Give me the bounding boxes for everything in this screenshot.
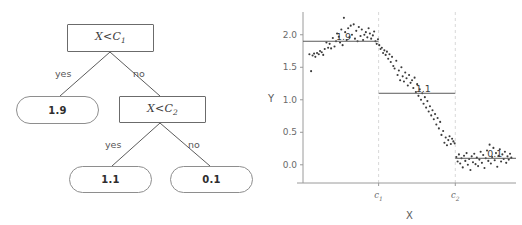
data-point [487, 160, 489, 162]
x-tick-label-1: c2 [451, 190, 460, 202]
tree-leaf-1-9[interactable]: 1.9 [16, 96, 99, 124]
data-point [439, 121, 441, 123]
data-point [446, 144, 448, 146]
data-point [506, 155, 508, 157]
data-point [411, 79, 413, 81]
data-point [508, 159, 510, 161]
y-tick-label-4: 2.0 [283, 30, 298, 40]
data-point [431, 109, 433, 111]
data-point [478, 159, 480, 161]
tree-leaf-0-1[interactable]: 0.1 [170, 166, 253, 193]
data-point [428, 110, 430, 112]
data-point [372, 34, 374, 36]
data-point [404, 71, 406, 73]
data-point [472, 161, 474, 163]
data-point [390, 61, 392, 63]
data-point [426, 100, 428, 102]
tree-node-root[interactable]: X<C1 [67, 24, 154, 52]
data-point [369, 32, 371, 34]
data-point [481, 162, 483, 164]
data-point [445, 136, 447, 138]
data-point [329, 43, 331, 45]
tree-leaf-1-9-value: 1.9 [48, 105, 66, 116]
data-point [398, 69, 400, 71]
x-tick-label-0: c1 [374, 190, 383, 202]
tree-leaf-1-1[interactable]: 1.1 [69, 166, 152, 193]
data-point [353, 23, 355, 25]
data-point [387, 58, 389, 60]
data-point [509, 153, 511, 155]
data-point [314, 56, 316, 58]
data-point [477, 165, 479, 167]
data-point [505, 162, 507, 164]
data-point [458, 153, 460, 155]
data-point [377, 38, 379, 40]
data-point [455, 156, 457, 158]
data-point [438, 127, 440, 129]
data-point [310, 70, 312, 72]
data-point [308, 53, 310, 55]
segment-1-1-annotation: 1.1 [416, 83, 431, 94]
data-point [362, 39, 364, 41]
segment-1-9-annotation: 1.9 [336, 31, 351, 42]
edge-label-inner-no: no [188, 139, 200, 150]
edge-label-root-yes: yes [55, 68, 71, 79]
data-point [417, 95, 419, 97]
data-point [322, 54, 324, 56]
data-point [358, 26, 360, 28]
edge-label-root-no: no [133, 68, 145, 79]
data-point [412, 87, 414, 89]
figure-root: X<C1 X<C2 1.9 1.1 0.1 yes no yes no 0.00… [0, 0, 522, 225]
y-tick-label-1: 0.5 [283, 127, 297, 137]
data-point [407, 84, 409, 86]
data-point [385, 54, 387, 56]
data-point [420, 99, 422, 101]
y-tick-label-3: 1.5 [283, 62, 297, 72]
data-point [350, 25, 352, 27]
data-point [500, 160, 502, 162]
data-point [312, 55, 314, 57]
data-point [442, 130, 444, 132]
tree-node-internal[interactable]: X<C2 [119, 96, 206, 123]
data-point [378, 44, 380, 46]
data-point [342, 44, 344, 46]
data-point [376, 43, 378, 45]
data-point [483, 167, 485, 169]
data-point [462, 166, 464, 168]
data-point [405, 77, 407, 79]
data-point [494, 159, 496, 161]
data-point [457, 160, 459, 162]
data-point [469, 169, 471, 171]
data-point [430, 114, 432, 116]
data-point [324, 48, 326, 50]
data-point [433, 118, 435, 120]
data-point [351, 34, 353, 36]
edge-line-inner-no [160, 123, 210, 166]
data-point [424, 96, 426, 98]
data-point [437, 117, 439, 119]
x-axis-title: X [406, 210, 413, 221]
data-point [325, 42, 327, 44]
chart-svg: 0.00.51.01.52.0c1c21.91.10.1XY [261, 0, 522, 225]
data-point [321, 51, 323, 53]
data-point [402, 75, 404, 77]
data-point [466, 152, 468, 154]
data-point [319, 50, 321, 52]
data-point [448, 135, 450, 137]
data-point [482, 154, 484, 156]
data-point [318, 53, 320, 55]
data-point [496, 166, 498, 168]
data-point [467, 164, 469, 166]
data-point [339, 42, 341, 44]
data-point [443, 142, 445, 144]
data-point [435, 123, 437, 125]
data-point [403, 81, 405, 83]
edge-label-inner-yes: yes [105, 139, 121, 150]
data-point [471, 155, 473, 157]
data-point [452, 140, 454, 142]
data-point [330, 47, 332, 49]
data-point [425, 107, 427, 109]
data-point [451, 138, 453, 140]
y-tick-label-0: 0.0 [283, 160, 298, 170]
data-point [365, 31, 367, 33]
